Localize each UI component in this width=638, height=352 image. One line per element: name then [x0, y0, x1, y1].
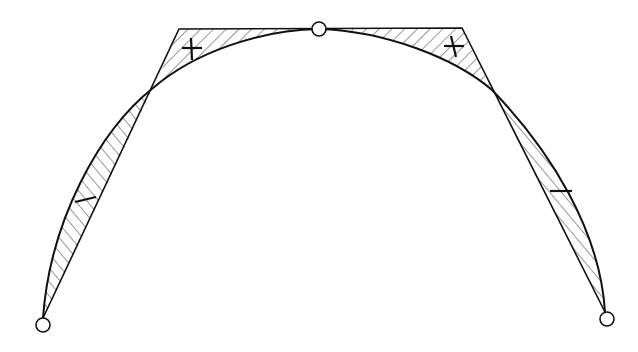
node-start [36, 318, 50, 332]
node-top [312, 22, 326, 36]
hatched-region-positive-left [153, 29, 319, 88]
curve-arc [43, 29, 605, 318]
control-polygon [43, 28, 605, 318]
node-end [600, 312, 614, 326]
curve-approximation-diagram [0, 0, 638, 352]
